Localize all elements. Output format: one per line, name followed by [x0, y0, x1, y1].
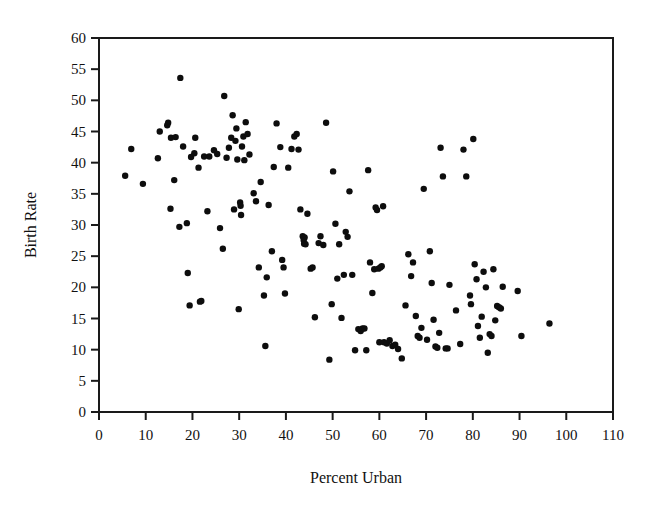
data-point [488, 333, 494, 339]
data-point [273, 120, 279, 126]
data-point [229, 112, 235, 118]
data-point [440, 173, 446, 179]
data-point [176, 224, 182, 230]
data-point [288, 146, 294, 152]
data-point [518, 333, 524, 339]
data-point [317, 233, 323, 239]
data-point [223, 154, 229, 160]
data-point [297, 206, 303, 212]
data-point [416, 335, 422, 341]
data-point [312, 314, 318, 320]
x-tick-label-110: 110 [602, 427, 624, 443]
data-point [329, 301, 335, 307]
data-point [479, 313, 485, 319]
data-point [374, 207, 380, 213]
data-point [408, 273, 414, 279]
data-point [241, 157, 247, 163]
data-point [332, 221, 338, 227]
data-point [236, 306, 242, 312]
x-tick-label-90: 90 [512, 427, 527, 443]
data-point [257, 179, 263, 185]
plot-canvas: 0102030405060708090100110 05101520253035… [0, 0, 646, 506]
data-point [282, 290, 288, 296]
y-tick-label-45: 45 [71, 124, 86, 140]
data-point [206, 153, 212, 159]
data-point [226, 145, 232, 151]
x-tick-label-50: 50 [325, 427, 340, 443]
y-tick-label-5: 5 [79, 373, 87, 389]
data-point [302, 241, 308, 247]
y-tick-label-60: 60 [71, 30, 86, 46]
data-point [418, 325, 424, 331]
x-tick-label-10: 10 [138, 427, 153, 443]
data-point [490, 266, 496, 272]
data-point [361, 325, 367, 331]
data-point [180, 143, 186, 149]
data-point [309, 264, 315, 270]
data-point [363, 347, 369, 353]
data-point [352, 347, 358, 353]
data-point [410, 259, 416, 265]
x-tick-label-80: 80 [465, 427, 480, 443]
data-point [232, 138, 238, 144]
x-axis-title: Percent Urban [310, 469, 402, 486]
data-point [424, 336, 430, 342]
data-point [234, 156, 240, 162]
y-tick-label-30: 30 [71, 217, 86, 233]
data-point [239, 143, 245, 149]
data-point [369, 290, 375, 296]
data-point [421, 186, 427, 192]
data-point [365, 167, 371, 173]
x-tick-label-100: 100 [555, 427, 578, 443]
data-point [326, 356, 332, 362]
data-point [413, 313, 419, 319]
data-point [468, 301, 474, 307]
data-point [485, 350, 491, 356]
data-point [336, 241, 342, 247]
data-point [453, 307, 459, 313]
data-point [330, 168, 336, 174]
y-tick-label-50: 50 [71, 92, 86, 108]
data-point [467, 292, 473, 298]
x-tick-label-70: 70 [419, 427, 434, 443]
data-point [233, 125, 239, 131]
data-point [434, 345, 440, 351]
x-tick-label-60: 60 [372, 427, 387, 443]
data-point [334, 275, 340, 281]
data-point [167, 206, 173, 212]
data-point [184, 220, 190, 226]
data-point [304, 211, 310, 217]
data-point [122, 173, 128, 179]
data-point [285, 164, 291, 170]
y-tick-label-15: 15 [71, 311, 86, 327]
data-point [157, 128, 163, 134]
y-tick-label-55: 55 [71, 61, 86, 77]
data-point [473, 276, 479, 282]
data-point [402, 302, 408, 308]
data-point [256, 264, 262, 270]
y-tick-label-35: 35 [71, 186, 86, 202]
data-point [231, 206, 237, 212]
data-point [177, 75, 183, 81]
data-point [386, 337, 392, 343]
data-point [269, 248, 275, 254]
data-point [277, 144, 283, 150]
data-point [261, 292, 267, 298]
data-point [320, 242, 326, 248]
data-point [471, 261, 477, 267]
data-point [140, 181, 146, 187]
data-point [380, 203, 386, 209]
data-point [244, 131, 250, 137]
data-point [165, 120, 171, 126]
x-tick-label-30: 30 [232, 427, 247, 443]
data-point [463, 173, 469, 179]
data-point [185, 270, 191, 276]
data-point [341, 272, 347, 278]
data-point [500, 284, 506, 290]
data-point [171, 177, 177, 183]
x-tick-label-40: 40 [278, 427, 293, 443]
data-point [280, 264, 286, 270]
y-tick-label-0: 0 [79, 404, 87, 420]
data-point [293, 131, 299, 137]
y-axis-title: Birth Rate [22, 192, 39, 258]
